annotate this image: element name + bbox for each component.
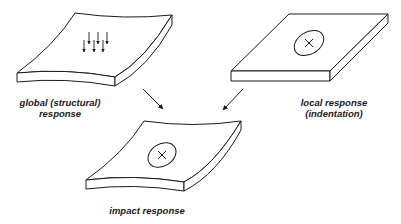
caption-line: (indentation): [292, 108, 376, 119]
caption-line: global (structural): [14, 97, 106, 108]
arrow-down-right-icon: [143, 89, 163, 109]
flat-plate-local: [231, 14, 388, 81]
caption-impact-response: impact response: [107, 205, 187, 216]
impact-response-diagram: global (structural) response local respo…: [0, 0, 401, 224]
arrow-down-left-icon: [223, 89, 243, 110]
curved-plate-global: [17, 13, 172, 86]
caption-line: response: [14, 108, 106, 119]
caption-line: local response: [292, 97, 376, 108]
caption-line: impact response: [107, 205, 187, 216]
caption-global-response: global (structural) response: [14, 97, 106, 119]
caption-local-response: local response (indentation): [292, 97, 376, 119]
